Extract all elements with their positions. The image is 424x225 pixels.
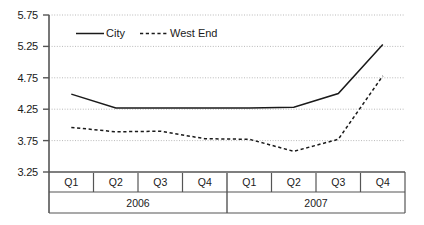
series-line-city <box>71 45 383 108</box>
legend-label-city: City <box>106 28 140 39</box>
y-axis-ticks <box>43 15 49 172</box>
line-chart: 5.75 5.25 4.75 4.25 3.75 3.25 <box>0 0 424 225</box>
x-tick-label-q4-2006: Q4 <box>183 177 228 188</box>
series-line-west-end <box>71 76 383 151</box>
x-group-label-2006: 2006 <box>49 198 227 209</box>
x-tick-label-q1-2006: Q1 <box>49 177 94 188</box>
x-tick-label-q1-2007: Q1 <box>227 177 272 188</box>
x-tick-label-q3-2007: Q3 <box>316 177 361 188</box>
x-tick-label-q2-2007: Q2 <box>272 177 317 188</box>
x-tick-label-q4-2007: Q4 <box>361 177 406 188</box>
x-tick-label-q2-2006: Q2 <box>94 177 139 188</box>
x-tick-label-q3-2006: Q3 <box>138 177 183 188</box>
x-group-label-2007: 2007 <box>227 198 405 209</box>
legend-label-west-end: West End <box>170 28 240 39</box>
